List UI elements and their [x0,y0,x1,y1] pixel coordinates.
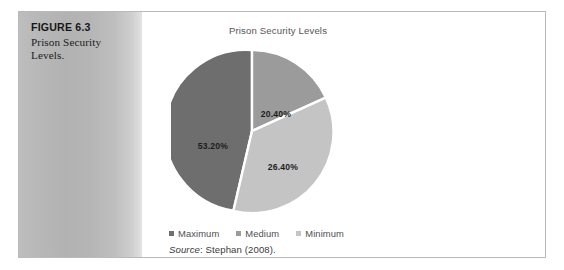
pie-chart: 20.40% 26.40% 53.20% [171,48,335,214]
figure-box: FIGURE 6.3 Prison Security Levels. Priso… [18,11,546,258]
legend-swatch-icon-maximum [169,231,174,236]
figure-caption-text: Prison Security Levels. [31,36,135,63]
legend-label-minimum: Minimum [305,228,344,239]
chart-area: Prison Security Levels 20.40% 26.40% 53.… [142,12,545,257]
figure-number-label: FIGURE 6.3 [31,21,135,35]
figure-caption-panel: FIGURE 6.3 Prison Security Levels. [19,12,142,257]
legend-label-medium: Medium [245,228,279,239]
pie-chart-svg: 20.40% 26.40% 53.20% [171,48,335,214]
legend-item-medium[interactable]: Medium [236,228,279,239]
legend-label-maximum: Maximum [178,228,219,239]
chart-legend: Maximum Medium Minimum [169,228,344,239]
pie-label-minimum: 26.40% [268,162,299,172]
source-note: Source: Stephan (2008). [169,244,276,255]
legend-swatch-icon-medium [236,231,241,236]
chart-title: Prison Security Levels [178,25,378,36]
source-label: Source [169,244,200,255]
legend-item-maximum[interactable]: Maximum [169,228,219,239]
figure-caption: FIGURE 6.3 Prison Security Levels. [31,21,135,63]
pie-label-medium: 20.40% [261,109,292,119]
legend-item-minimum[interactable]: Minimum [296,228,344,239]
legend-swatch-icon-minimum [296,231,301,236]
pie-label-maximum: 53.20% [198,141,229,151]
source-citation: : Stephan (2008). [200,244,276,255]
